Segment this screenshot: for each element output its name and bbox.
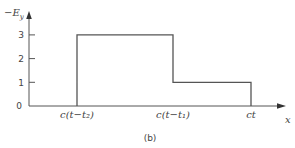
axes (26, 11, 286, 109)
x-tick-label: ct (246, 109, 257, 120)
y-tick-label: 1 (18, 78, 24, 88)
x-axis-arrow-icon (277, 103, 286, 109)
y-ticks: 0123 (16, 30, 35, 111)
step-series-line (77, 35, 251, 106)
y-axis-label: −Ey (4, 7, 25, 21)
y-tick-label: 2 (18, 54, 24, 64)
y-axis-label-main: −E (4, 7, 20, 18)
x-tick-label: c(t−t₂) (60, 109, 94, 120)
y-tick-label: 0 (16, 101, 22, 111)
x-ticks: c(t−t₂)c(t−t₁)ct (60, 109, 257, 120)
series-group (77, 35, 251, 106)
chart: −Ey x 0123 c(t−t₂)c(t−t₁)ct (b) (0, 0, 295, 148)
y-axis-arrow-icon (26, 11, 32, 19)
figure-caption: (b) (144, 133, 157, 143)
x-axis-label: x (285, 114, 291, 125)
y-axis-label-sub: y (19, 13, 25, 21)
y-tick-label: 3 (18, 30, 24, 40)
x-tick-label: c(t−t₁) (156, 109, 190, 120)
